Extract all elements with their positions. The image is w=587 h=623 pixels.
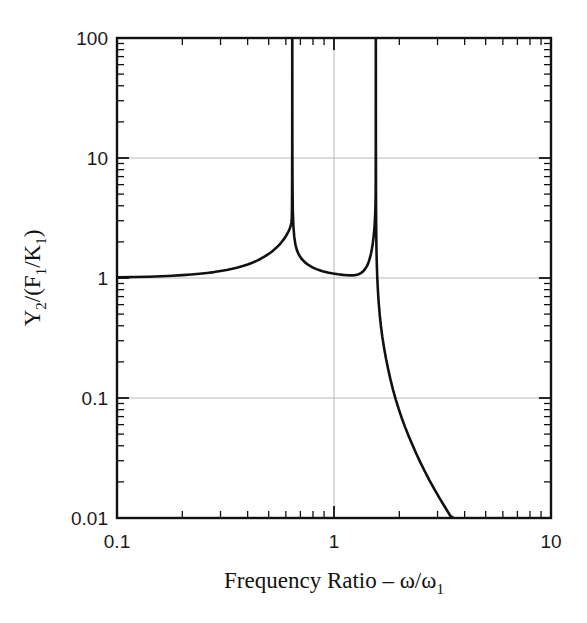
y-axis-title-p1: Y [20,309,45,326]
y-axis-title-p2sub: 1 [33,268,49,276]
x-tick-label: 0.1 [104,531,130,552]
y-tick-label: 0.1 [82,388,108,409]
chart-figure: 0.11100.010.1110100 Frequency Ratio – ω/… [0,0,587,623]
y-axis-title-p4: ) [20,230,45,238]
y-tick-label: 100 [76,28,108,49]
svg-text:Frequency Ratio – ω/ω1: Frequency Ratio – ω/ω1 [224,568,444,597]
y-axis-title-p2: /(F [20,275,45,302]
y-axis-title-p1sub: 2 [33,302,49,310]
x-tick-label: 1 [329,531,340,552]
y-tick-label: 0.01 [71,508,108,529]
x-axis-title: Frequency Ratio – ω/ω1 [224,568,444,597]
x-axis-title-main: Frequency Ratio – ω/ω [224,568,436,593]
frequency-response-plot: 0.11100.010.1110100 Frequency Ratio – ω/… [0,0,587,623]
y-tick-label: 10 [87,148,108,169]
y-axis-title-p3: /K [20,244,45,267]
x-axis-title-sub: 1 [436,581,444,597]
y-tick-label: 1 [97,268,108,289]
y-axis-title-p3sub: 1 [33,237,49,245]
x-tick-label: 10 [540,531,561,552]
